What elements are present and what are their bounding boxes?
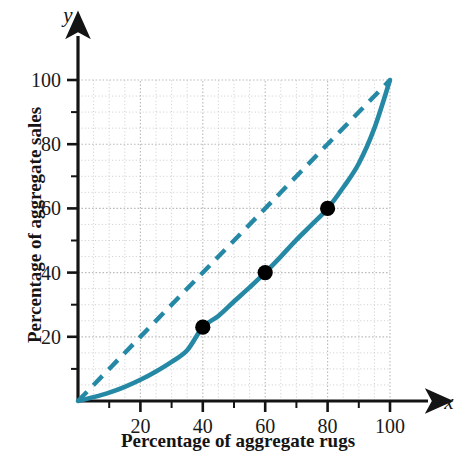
data-point xyxy=(258,265,273,280)
data-point xyxy=(320,201,335,216)
x-axis-tick-labels: 20406080100 xyxy=(130,415,405,437)
y-axis-ticks xyxy=(67,80,78,369)
x-tick-label: 100 xyxy=(375,415,405,437)
lorenz-curve-chart: Percentage of aggregate sales Percentage… xyxy=(0,0,472,457)
x-tick-label: 20 xyxy=(130,415,150,437)
x-tick-label: 80 xyxy=(318,415,338,437)
x-axis-ticks xyxy=(109,401,390,412)
data-point xyxy=(195,320,210,335)
y-axis-tick-labels: 20406080100 xyxy=(31,69,61,348)
y-tick-label: 80 xyxy=(41,133,61,155)
x-axis-symbol: x xyxy=(443,390,454,414)
y-tick-label: 20 xyxy=(41,326,61,348)
y-tick-label: 100 xyxy=(31,69,61,91)
plot-svg: 20406080100 20406080100 y x xyxy=(0,0,472,457)
x-tick-label: 40 xyxy=(193,415,213,437)
y-axis-symbol: y xyxy=(61,3,73,27)
y-tick-label: 40 xyxy=(41,262,61,284)
x-tick-label: 60 xyxy=(255,415,275,437)
y-tick-label: 60 xyxy=(41,197,61,219)
